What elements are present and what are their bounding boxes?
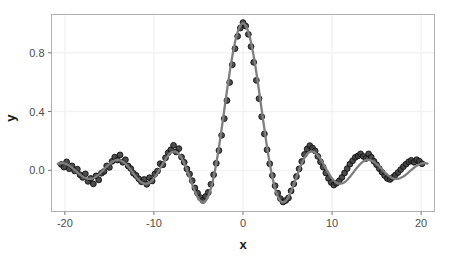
data-point <box>117 152 123 158</box>
x-tick-label: 0 <box>240 217 246 229</box>
y-axis-title: y <box>3 114 18 122</box>
x-tick-label: -10 <box>146 217 162 229</box>
data-point <box>176 146 182 152</box>
data-point <box>171 142 177 148</box>
scatter-plot-svg: -20-1001020 0.00.40.8 x y <box>0 0 453 259</box>
x-tick-label: -20 <box>57 217 73 229</box>
x-tick-label: 10 <box>326 217 338 229</box>
chart-figure: -20-1001020 0.00.40.8 x y <box>0 0 453 259</box>
y-tick-label: 0.8 <box>29 47 44 59</box>
data-point <box>90 181 96 187</box>
y-tick-label: 0.4 <box>29 106 44 118</box>
data-point <box>96 177 102 183</box>
x-axis-title: x <box>239 237 247 252</box>
x-tick-label: 20 <box>415 217 427 229</box>
plot-panel <box>52 15 435 212</box>
y-tick-label: 0.0 <box>29 164 44 176</box>
